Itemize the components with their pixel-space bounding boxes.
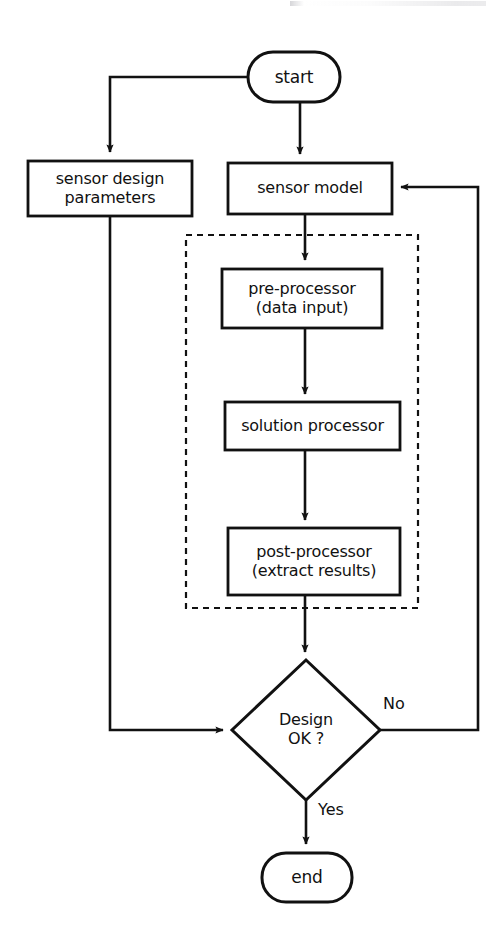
node-sensor-design-parameters-label: sensor design parameters (28, 161, 192, 216)
node-sensor-design-parameters-line-2: parameters (65, 189, 156, 208)
node-pre-processor-line-2: (data input) (256, 299, 348, 318)
node-solution-processor-label: solution processor (225, 402, 400, 450)
edge-label-no: No (383, 694, 405, 713)
node-start-label: start (248, 52, 340, 102)
node-post-processor-label: post-processor (extract results) (228, 528, 400, 595)
node-end-line-1: end (291, 867, 322, 887)
node-start-line-1: start (275, 67, 314, 87)
node-design-ok-label: Design OK ? (232, 695, 380, 765)
edge-label-yes: Yes (318, 800, 344, 819)
node-design-ok-line-2: OK ? (288, 730, 324, 749)
node-post-processor-line-1: post-processor (256, 543, 371, 562)
edge-start-to-sensor-design (110, 77, 248, 152)
node-sensor-design-parameters-line-1: sensor design (56, 170, 165, 189)
node-solution-processor-line-1: solution processor (241, 417, 384, 436)
node-pre-processor-label: pre-processor (data input) (222, 269, 382, 328)
flowchart-graphics (0, 0, 491, 940)
node-sensor-model-label: sensor model (228, 163, 392, 214)
edge-sensor-design-to-design-ok (110, 216, 223, 730)
node-pre-processor-line-1: pre-processor (248, 280, 355, 299)
node-end-label: end (262, 853, 352, 902)
node-sensor-model-line-1: sensor model (257, 179, 363, 198)
node-post-processor-line-2: (extract results) (252, 562, 377, 581)
flowchart-canvas: start sensor design parameters sensor mo… (0, 0, 491, 940)
edge-design-ok-no-to-sensor-model (380, 187, 478, 730)
node-design-ok-line-1: Design (279, 711, 333, 730)
